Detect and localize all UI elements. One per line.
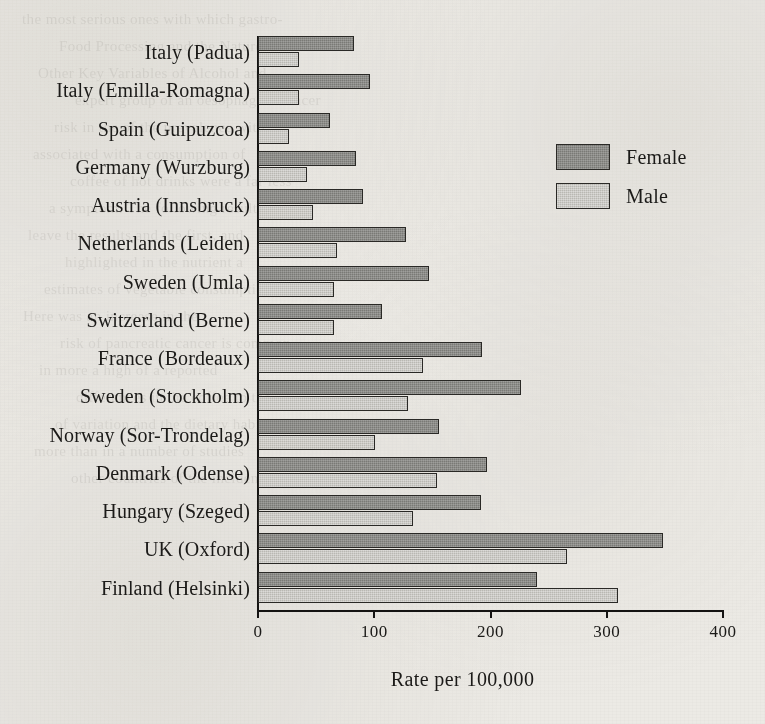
x-tick-label-200: 200 <box>477 622 504 642</box>
x-tick-label-400: 400 <box>710 622 737 642</box>
bar-male <box>258 167 307 182</box>
legend-swatch-male-icon <box>556 183 610 209</box>
bar-group <box>258 457 723 495</box>
category-label: Norway (Sor-Trondelag) <box>50 423 250 446</box>
bar-chart: Italy (Padua)Italy (Emilla-Romagna)Spain… <box>0 0 765 724</box>
bar-male <box>258 205 313 220</box>
category-label: Netherlands (Leiden) <box>78 232 250 255</box>
bar-female <box>258 533 663 548</box>
bar-female <box>258 572 537 587</box>
category-label: Italy (Emilla-Romagna) <box>56 79 250 102</box>
category-label: France (Bordeaux) <box>98 347 250 370</box>
category-label: Austria (Innsbruck) <box>91 194 250 217</box>
category-label: Finland (Helsinki) <box>101 576 250 599</box>
x-tick-0 <box>257 610 259 618</box>
category-label: Sweden (Stockholm) <box>80 385 250 408</box>
bar-female <box>258 342 482 357</box>
legend-label-female: Female <box>626 146 687 169</box>
chart-legend: Female Male <box>556 144 687 222</box>
bar-male <box>258 52 299 67</box>
legend-swatch-female-icon <box>556 144 610 170</box>
x-tick-400 <box>722 610 724 618</box>
bar-male <box>258 243 337 258</box>
x-tick-label-0: 0 <box>254 622 263 642</box>
category-label: Spain (Guipuzcoa) <box>98 117 250 140</box>
bar-group <box>258 266 723 304</box>
category-label: UK (Oxford) <box>144 538 250 561</box>
bar-female <box>258 266 429 281</box>
x-tick-100 <box>373 610 375 618</box>
category-label: Switzerland (Berne) <box>86 308 250 331</box>
legend-label-male: Male <box>626 185 668 208</box>
bar-male <box>258 320 334 335</box>
bar-group <box>258 380 723 418</box>
bar-male <box>258 435 375 450</box>
bar-group <box>258 36 723 74</box>
bar-male <box>258 511 413 526</box>
x-tick-label-300: 300 <box>593 622 620 642</box>
bar-group <box>258 342 723 380</box>
bar-male <box>258 396 408 411</box>
legend-item-female: Female <box>556 144 687 170</box>
bar-female <box>258 380 521 395</box>
x-axis-title: Rate per 100,000 <box>0 668 765 691</box>
bar-group <box>258 419 723 457</box>
bar-male <box>258 588 618 603</box>
category-label: Italy (Padua) <box>145 41 250 64</box>
bar-male <box>258 90 299 105</box>
plot-area: 0100200300400 <box>258 36 723 610</box>
bar-female <box>258 495 481 510</box>
x-tick-300 <box>606 610 608 618</box>
category-label: Germany (Wurzburg) <box>76 155 250 178</box>
bar-female <box>258 457 487 472</box>
bar-female <box>258 189 363 204</box>
bar-male <box>258 282 334 297</box>
bar-male <box>258 473 437 488</box>
bar-female <box>258 419 439 434</box>
bar-female <box>258 74 370 89</box>
bar-male <box>258 358 423 373</box>
legend-item-male: Male <box>556 183 687 209</box>
category-label: Denmark (Odense) <box>96 461 250 484</box>
bar-female <box>258 304 382 319</box>
bar-group <box>258 533 723 571</box>
bar-group <box>258 495 723 533</box>
bar-group <box>258 304 723 342</box>
bar-group <box>258 227 723 265</box>
bar-female <box>258 151 356 166</box>
category-label: Hungary (Szeged) <box>102 500 250 523</box>
bar-female <box>258 36 354 51</box>
category-label: Sweden (Umla) <box>123 270 250 293</box>
x-tick-200 <box>490 610 492 618</box>
bar-female <box>258 113 330 128</box>
bar-group <box>258 74 723 112</box>
bar-male <box>258 129 289 144</box>
bar-female <box>258 227 406 242</box>
bar-male <box>258 549 567 564</box>
bar-group <box>258 572 723 610</box>
x-tick-label-100: 100 <box>361 622 388 642</box>
